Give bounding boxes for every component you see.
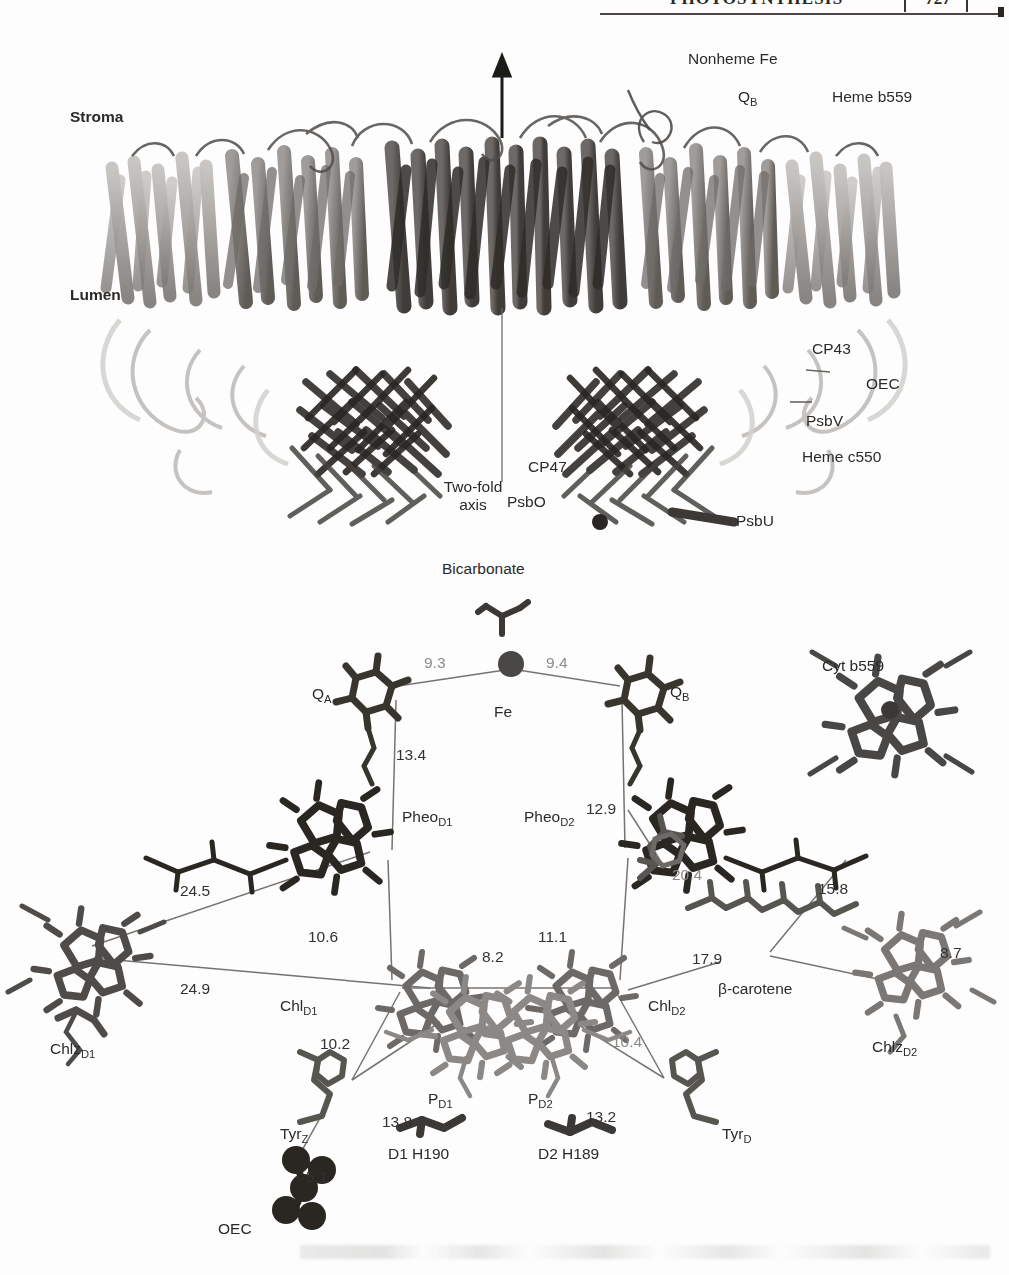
label-cp47: CP47 [528, 458, 567, 476]
label-chl-d2-text: Chl [648, 997, 671, 1014]
label-chlz-d1-sub: D1 [81, 1048, 95, 1060]
label-tyr-z: TyrZ [280, 1125, 308, 1143]
distance-chlzd2-inner: 8.7 [940, 944, 962, 962]
label-beta-carotene: β-carotene [718, 980, 792, 998]
label-fe: Fe [494, 703, 512, 721]
label-nonheme-fe: Nonheme Fe [688, 50, 778, 68]
label-chlz-d1-text: Chlz [50, 1040, 81, 1057]
label-pheo-d2: PheoD2 [524, 808, 574, 826]
two-fold-axis-line2: axis [418, 496, 528, 514]
label-p-d2-text: P [528, 1090, 538, 1107]
cyt-b559-prefix: Cyt [822, 657, 850, 674]
label-p-d2-sub: D2 [538, 1098, 552, 1110]
label-chl-d1-sub: D1 [303, 1005, 317, 1017]
distance-chld2-carotene: 17.9 [692, 950, 722, 968]
distance-fe-qb: 9.4 [546, 654, 568, 672]
label-p-d1-sub: D1 [438, 1098, 452, 1110]
page-number: 727 [912, 0, 964, 9]
label-chl-d2: ChlD2 [648, 997, 686, 1015]
psii-structure-panel: Stroma Lumen Nonheme Fe QB Heme b559 CP4… [0, 30, 1009, 540]
label-pheo-d1-text: Pheo [402, 808, 438, 825]
label-chl-d1: ChlD1 [280, 997, 318, 1015]
running-head: PHOTOSYNTHESIS 727 [600, 0, 1009, 22]
running-head-title: PHOTOSYNTHESIS [670, 0, 843, 9]
label-p-d2: PD2 [528, 1090, 553, 1108]
label-chlz-d2-sub: D2 [903, 1046, 917, 1058]
heme-c550-suffix: 550 [855, 448, 881, 465]
label-tyr-d: TyrD [722, 1125, 752, 1143]
distance-chld1-chld2: 8.2 [482, 948, 504, 966]
label-qa: QA [312, 685, 332, 703]
label-heme-c550: Heme c550 [802, 448, 881, 466]
label-p-d1: PD1 [428, 1090, 453, 1108]
heme-b559-suffix: 559 [886, 88, 912, 105]
distance-pheod1-chld1: 10.6 [308, 928, 338, 946]
label-pheo-d2-text: Pheo [524, 808, 560, 825]
label-oec-bottom: OEC [218, 1220, 252, 1238]
label-stroma: Stroma [70, 108, 123, 126]
heme-b559-italic: b [878, 88, 887, 105]
label-cyt-b559: Cyt b559 [822, 657, 884, 675]
distance-pheod2-chld2: 11.1 [538, 928, 567, 946]
label-tyr-z-sub: Z [302, 1133, 309, 1145]
heme-c550-prefix: Heme [802, 448, 848, 465]
label-chlz-d2: ChlzD2 [872, 1038, 917, 1056]
label-chl-d1-text: Chl [280, 997, 303, 1014]
label-cp43: CP43 [812, 340, 851, 358]
label-p-d1-text: P [428, 1090, 438, 1107]
distance-qa-fe: 9.3 [424, 654, 446, 672]
label-tyr-d-sub: D [744, 1133, 752, 1145]
label-qb-top: QB [738, 88, 758, 106]
label-heme-b559-top: Heme b559 [832, 88, 912, 106]
label-pheo-d1-sub: D1 [438, 816, 452, 828]
distance-pd1-tyrz: 13.8 [382, 1113, 412, 1131]
distance-qb-carotene: 20.4 [672, 866, 702, 884]
label-qb-top-sub: B [750, 96, 757, 108]
distance-chld2-pd2: 10.4 [612, 1033, 642, 1051]
label-chlz-d1: ChlzD1 [50, 1040, 95, 1058]
running-head-rule [600, 13, 1000, 15]
label-tyr-z-text: Tyr [280, 1125, 302, 1142]
label-tyr-d-text: Tyr [722, 1125, 744, 1142]
distance-qb-pheod2: 12.9 [586, 800, 616, 818]
label-d1-h190: D1 H190 [388, 1145, 449, 1163]
cofactor-arrangement-panel: Bicarbonate QA Fe QB Cyt b559 PheoD1 Phe… [0, 560, 1009, 1260]
label-pheo-d1: PheoD1 [402, 808, 452, 826]
label-d2-h189: D2 H189 [538, 1145, 599, 1163]
cyt-b559-suffix: 559 [858, 657, 884, 674]
distance-pd2-tyrd: 13.2 [586, 1108, 616, 1126]
label-two-fold-axis: Two-fold axis [418, 478, 528, 514]
distance-qa-pheod1: 13.4 [396, 746, 426, 764]
label-pheo-d2-sub: D2 [560, 816, 574, 828]
cyt-b559-italic: b [850, 657, 859, 674]
label-chl-d2-sub: D2 [671, 1005, 685, 1017]
distance-chld1-pd1: 10.2 [320, 1035, 350, 1053]
label-qb-bottom: QB [670, 683, 690, 701]
heme-b559-prefix: Heme [832, 88, 878, 105]
distance-carotene-cyt: 15.8 [818, 880, 848, 898]
label-qb-top-text: Q [738, 88, 750, 105]
two-fold-axis-line1: Two-fold [418, 478, 528, 496]
label-chlz-d2-text: Chlz [872, 1038, 903, 1055]
label-qb-bottom-text: Q [670, 683, 682, 700]
label-psbu: PsbU [736, 512, 774, 530]
distance-chlzd1-chld1: 24.9 [180, 980, 210, 998]
label-qb-bottom-sub: B [682, 691, 689, 703]
caption-text-partial [300, 1245, 990, 1259]
label-oec-top: OEC [866, 375, 900, 393]
figure-page: PHOTOSYNTHESIS 727 [0, 0, 1009, 1275]
label-qa-text: Q [312, 685, 324, 702]
label-bicarbonate: Bicarbonate [442, 560, 525, 578]
label-qa-sub: A [324, 693, 331, 705]
distance-chlzd1-pheod1: 24.5 [180, 882, 210, 900]
distance-tyrz-oec: 5.1 [306, 1168, 328, 1186]
label-lumen: Lumen [70, 286, 121, 304]
label-psbv: PsbV [806, 412, 843, 430]
